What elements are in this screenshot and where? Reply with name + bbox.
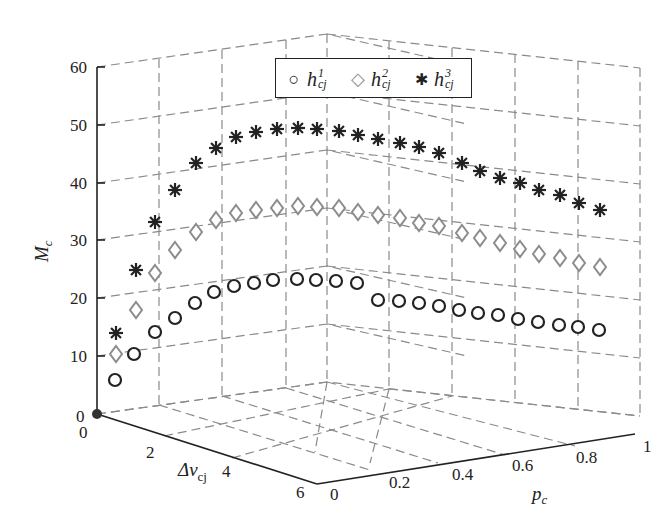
data-point-diamond — [573, 255, 585, 271]
svg-text:0: 0 — [79, 423, 88, 442]
z-tick-labels: 60 50 40 30 20 10 0 — [70, 58, 87, 426]
data-point-diamond — [474, 230, 486, 246]
data-point-diamond — [190, 224, 202, 240]
data-point-diamond — [210, 212, 222, 228]
data-point-diamond — [533, 246, 545, 262]
data-point-circle — [553, 319, 565, 331]
data-point-star — [432, 146, 446, 160]
data-point-diamond — [594, 259, 606, 275]
data-point-circle — [472, 307, 484, 319]
data-point-circle — [492, 309, 504, 321]
data-point-circle — [413, 297, 425, 309]
data-point-star — [189, 156, 203, 170]
data-point-circle — [393, 295, 405, 307]
data-point-star — [129, 263, 143, 277]
data-point-diamond — [352, 204, 364, 220]
data-point-circle — [532, 316, 544, 328]
data-point-star — [493, 171, 507, 185]
data-point-star — [532, 183, 546, 197]
svg-text:50: 50 — [70, 116, 87, 135]
dv-axis-label: Δvcj — [177, 459, 207, 484]
data-point-diamond — [554, 250, 566, 266]
data-point-star — [412, 140, 426, 154]
data-point-star — [393, 136, 407, 150]
data-point-circle — [453, 304, 465, 316]
svg-text:6: 6 — [296, 483, 305, 502]
data-point-star — [593, 203, 607, 217]
data-point-star — [249, 125, 263, 139]
data-point-star — [553, 188, 567, 202]
circle-marker-icon: ○ — [286, 69, 302, 90]
data-point-star — [209, 141, 223, 155]
data-point-diamond — [292, 198, 304, 214]
data-point-circle — [310, 274, 322, 286]
data-point-star — [109, 326, 123, 340]
data-point-diamond — [110, 346, 122, 362]
data-point-star — [229, 130, 243, 144]
data-point-circle — [267, 274, 279, 286]
pc-axis-label: pc — [530, 483, 548, 507]
svg-text:0.4: 0.4 — [452, 465, 474, 484]
svg-text:0.2: 0.2 — [389, 473, 410, 492]
data-point-diamond — [271, 200, 283, 216]
data-point-diamond — [514, 241, 526, 257]
diamond-marker-icon: ◇ — [350, 68, 366, 90]
data-point-circle — [128, 348, 140, 360]
data-point-diamond — [494, 235, 506, 251]
data-point-diamond — [149, 265, 161, 281]
data-point-circle — [593, 324, 605, 336]
series-h1-circles — [109, 273, 605, 386]
data-point-circle — [433, 300, 445, 312]
origin-marker — [92, 409, 102, 419]
data-point-star — [291, 121, 305, 135]
data-point-star — [371, 132, 385, 146]
pc-tick-labels: 0 0.2 0.4 0.6 0.8 1 — [330, 437, 652, 504]
data-point-star — [513, 176, 527, 190]
data-point-star — [148, 215, 162, 229]
svg-text:0.8: 0.8 — [576, 448, 597, 467]
data-point-circle — [351, 277, 363, 289]
data-point-circle — [372, 294, 384, 306]
svg-text:1: 1 — [643, 437, 652, 456]
data-point-star — [270, 122, 284, 136]
data-point-star — [473, 164, 487, 178]
data-point-star — [351, 128, 365, 142]
data-point-star — [310, 122, 324, 136]
svg-text:0.6: 0.6 — [512, 456, 533, 475]
legend-item-h3: ✱ h3cj — [413, 65, 454, 93]
svg-text:60: 60 — [70, 58, 87, 77]
data-point-circle — [109, 374, 121, 386]
data-point-diamond — [311, 199, 323, 215]
data-point-diamond — [456, 225, 468, 241]
data-point-star — [168, 183, 182, 197]
data-point-star — [572, 196, 586, 210]
data-point-circle — [169, 312, 181, 324]
data-point-diamond — [333, 200, 345, 216]
svg-text:0: 0 — [330, 485, 339, 504]
z-axis-label: Mc — [31, 240, 55, 263]
legend-item-h1: ○ h1cj — [286, 65, 327, 93]
dv-axis-line — [97, 414, 317, 484]
data-point-circle — [572, 321, 584, 333]
svg-text:2: 2 — [146, 443, 155, 462]
data-point-diamond — [169, 242, 181, 258]
data-point-circle — [512, 313, 524, 325]
data-point-circle — [149, 326, 161, 338]
legend-item-h2: ◇ h2cj — [350, 65, 391, 93]
svg-text:30: 30 — [70, 231, 87, 250]
svg-text:40: 40 — [70, 174, 87, 193]
svg-text:4: 4 — [222, 462, 231, 481]
star-marker-icon: ✱ — [413, 70, 429, 89]
data-point-diamond — [250, 202, 262, 218]
data-point-circle — [330, 275, 342, 287]
data-point-star — [332, 124, 346, 138]
data-point-diamond — [130, 302, 142, 318]
svg-text:10: 10 — [70, 347, 87, 366]
data-point-diamond — [230, 205, 242, 221]
legend: ○ h1cj ◇ h2cj ✱ h3cj — [275, 58, 472, 98]
data-point-circle — [208, 286, 220, 298]
data-point-circle — [228, 280, 240, 292]
data-point-circle — [248, 277, 260, 289]
data-point-circle — [291, 273, 303, 285]
data-point-circle — [189, 297, 201, 309]
